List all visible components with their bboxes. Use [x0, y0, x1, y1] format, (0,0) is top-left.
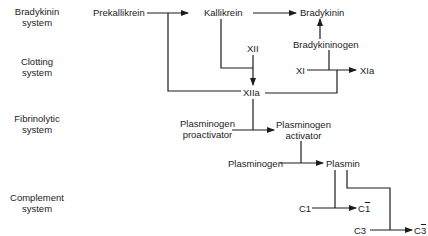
node-c3: C3: [354, 225, 366, 236]
node-c3-activated: C3: [414, 225, 426, 236]
node-label-line1: Plasminogen: [180, 118, 235, 129]
node-xia: XIa: [360, 65, 374, 76]
node-kallikrein: Kallikrein: [204, 7, 243, 18]
node-label-base: C: [414, 225, 421, 236]
node-c1-activated: C1: [358, 203, 370, 214]
node-label-base: C: [358, 203, 365, 214]
node-c1: C1: [299, 203, 311, 214]
node-label-line1: Plasminogen: [276, 119, 331, 130]
node-bradykinin: Bradykinin: [300, 7, 344, 18]
node-label-line2: activator: [276, 130, 331, 141]
node-plasminogen-activator: Plasminogen activator: [276, 119, 331, 141]
node-plasmin: Plasmin: [326, 158, 360, 169]
node-plasminogen: Plasminogen: [228, 158, 283, 169]
node-label-bar: 3: [421, 225, 426, 236]
node-prekallikrein: Prekallikrein: [93, 7, 145, 18]
node-label-bar: 1: [365, 203, 370, 214]
node-xii: XII: [247, 43, 259, 54]
node-plasminogen-proactivator: Plasminogen proactivator: [180, 118, 235, 140]
node-label-line2: proactivator: [180, 129, 235, 140]
node-xiia: XIIa: [243, 87, 260, 98]
cascade-diagram: Bradykinin system Clotting system Fibrin…: [0, 0, 428, 236]
node-bradykininogen: Bradykininogen: [293, 39, 359, 50]
node-xi: XI: [296, 65, 305, 76]
